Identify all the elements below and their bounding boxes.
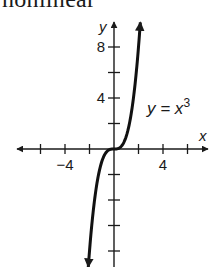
- axes: [17, 22, 208, 267]
- y-tick-label: 8: [97, 38, 105, 55]
- x-tick-label: −4: [56, 156, 73, 173]
- y-tick-label: 4: [97, 89, 105, 106]
- y-axis-label: y: [98, 18, 108, 35]
- function-label-exponent: 3: [183, 96, 190, 110]
- x-tick-labels: −44: [56, 156, 167, 173]
- function-label-text: y = x: [146, 99, 184, 118]
- cubic-function-graph: −44 84 x y y = x3: [0, 0, 215, 267]
- x-axis-label: x: [198, 127, 207, 144]
- y-tick-labels: 84: [97, 38, 105, 106]
- function-label: y = x3: [146, 96, 190, 118]
- x-tick-label: 4: [159, 156, 167, 173]
